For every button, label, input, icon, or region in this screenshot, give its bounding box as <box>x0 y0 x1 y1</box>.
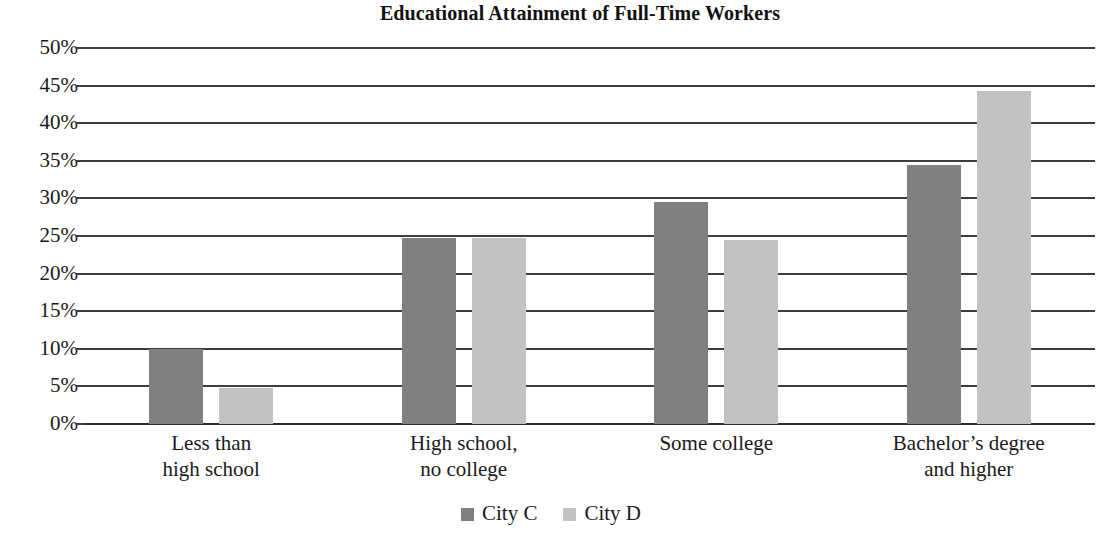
y-axis-tick-mark <box>76 160 85 162</box>
y-axis-tick-label: 25% <box>0 225 78 246</box>
x-axis-category-label: High school,no college <box>338 430 591 482</box>
y-axis: 50%45%40%35%30%25%20%15%10%5%0% <box>0 48 78 424</box>
legend-item[interactable]: City C <box>461 503 537 524</box>
x-axis-category-line: no college <box>338 456 591 482</box>
x-axis-category-line: High school, <box>410 431 517 455</box>
x-axis-category-line: and higher <box>843 456 1096 482</box>
y-axis-tick-label: 40% <box>0 112 78 133</box>
y-axis-tick-label: 35% <box>0 150 78 171</box>
y-axis-tick-mark <box>76 385 85 387</box>
y-axis-tick-mark <box>76 273 85 275</box>
gridline <box>85 85 1095 87</box>
y-axis-tick-mark <box>76 423 85 425</box>
gridline <box>85 122 1095 124</box>
y-axis-tick-label: 0% <box>0 413 78 434</box>
y-axis-tick-mark <box>76 348 85 350</box>
y-axis-tick-label: 30% <box>0 187 78 208</box>
legend-item[interactable]: City D <box>563 503 641 524</box>
x-axis-category-line: Bachelor’s degree <box>893 431 1045 455</box>
y-axis-tick-mark <box>76 85 85 87</box>
y-axis-tick-label: 45% <box>0 75 78 96</box>
y-axis-tick-mark <box>76 197 85 199</box>
chart-legend: City CCity D <box>0 503 1102 524</box>
gridline <box>85 47 1095 49</box>
bar-city-c[interactable] <box>907 165 961 424</box>
y-axis-tick-label: 5% <box>0 375 78 396</box>
y-axis-tick-mark <box>76 310 85 312</box>
x-axis-category-line: Some college <box>659 431 773 455</box>
y-axis-tick-label: 10% <box>0 338 78 359</box>
x-axis-category-label: Less thanhigh school <box>85 430 338 482</box>
bar-city-d[interactable] <box>977 91 1031 424</box>
bar-city-d[interactable] <box>724 240 778 424</box>
x-axis-category-label: Some college <box>590 430 843 456</box>
y-axis-tick-mark <box>76 47 85 49</box>
legend-label: City C <box>482 503 537 524</box>
y-axis-tick-label: 20% <box>0 263 78 284</box>
chart-title: Educational Attainment of Full-Time Work… <box>0 2 1102 25</box>
legend-label: City D <box>584 503 641 524</box>
bar-city-d[interactable] <box>472 238 526 424</box>
x-axis-category-label: Bachelor’s degreeand higher <box>843 430 1096 482</box>
y-axis-tick-label: 15% <box>0 300 78 321</box>
x-axis-category-line: high school <box>85 456 338 482</box>
bar-city-c[interactable] <box>402 238 456 424</box>
gridline <box>85 160 1095 162</box>
x-axis-category-line: Less than <box>171 431 251 455</box>
bar-city-c[interactable] <box>654 202 708 424</box>
y-axis-tick-mark <box>76 122 85 124</box>
legend-swatch-icon <box>563 508 576 521</box>
bar-city-d[interactable] <box>219 388 273 424</box>
y-axis-tick-mark <box>76 235 85 237</box>
legend-swatch-icon <box>461 508 474 521</box>
bar-chart: Educational Attainment of Full-Time Work… <box>0 0 1102 540</box>
y-axis-tick-label: 50% <box>0 37 78 58</box>
x-axis: Less thanhigh schoolHigh school,no colle… <box>85 430 1095 492</box>
bar-city-c[interactable] <box>149 349 203 424</box>
plot-area <box>85 48 1095 424</box>
